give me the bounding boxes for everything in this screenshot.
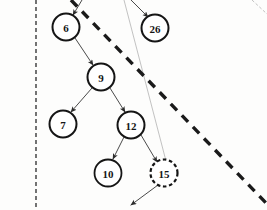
tree-edge-e-9-7 (71, 88, 92, 112)
top-right-corner-line (252, 0, 267, 14)
node-circle-26[interactable] (142, 15, 169, 42)
node-circle-12[interactable] (118, 112, 145, 139)
tree-edge-e-12-10 (113, 137, 124, 159)
tree-edge-e-9-12 (110, 88, 125, 112)
node-circle-9[interactable] (88, 64, 115, 91)
node-circle-10[interactable] (95, 160, 122, 187)
node-circle-15[interactable] (151, 160, 178, 187)
tree-edge-e-15-out (131, 185, 158, 205)
tree-edge-e-in26 (131, 0, 148, 17)
tree-nodes-layer: 62697121015 (50, 14, 178, 187)
tree-node-9[interactable]: 9 (88, 64, 115, 91)
tree-diagram-canvas: 62697121015 (0, 0, 267, 210)
node-circle-6[interactable] (53, 14, 80, 41)
tree-edge-e-12-15 (141, 135, 157, 162)
node-circle-7[interactable] (50, 111, 77, 138)
binary-search-tree-svg: 62697121015 (0, 0, 267, 210)
tree-node-26[interactable]: 26 (142, 15, 169, 42)
tree-node-15[interactable]: 15 (151, 160, 178, 187)
tree-node-10[interactable]: 10 (95, 160, 122, 187)
tree-edge-e-6-9 (75, 38, 93, 65)
tree-node-12[interactable]: 12 (118, 112, 145, 139)
tree-node-6[interactable]: 6 (53, 14, 80, 41)
tree-node-7[interactable]: 7 (50, 111, 77, 138)
